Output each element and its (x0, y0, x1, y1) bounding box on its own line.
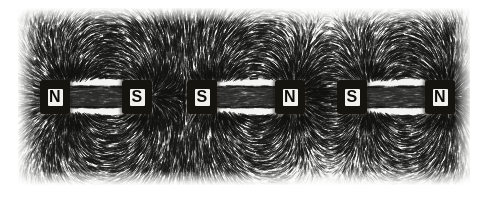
magnet-1-pole-label-left: N (40, 89, 70, 105)
magnet-2: SN (187, 80, 305, 114)
magnet-1-pole-n: N (40, 80, 70, 114)
magnet-3-pole-s: S (337, 80, 367, 114)
magnet-3-pole-label-left: S (337, 89, 367, 105)
magnet-3-pole-label-right: N (425, 89, 455, 105)
magnet-3: SN (337, 80, 455, 114)
pole-letter: S (346, 88, 357, 105)
magnet-2-pole-label-left: S (187, 89, 217, 105)
magnet-1: NS (40, 80, 152, 114)
magnet-2-pole-label-right: N (275, 89, 305, 105)
magnet-3-pole-n: N (425, 80, 455, 114)
pole-letter: N (284, 88, 296, 105)
magnet-1-pole-label-right: S (122, 89, 152, 105)
magnetic-field-figure: NSSNSN Iron filings pattern around three… (0, 0, 482, 200)
pole-letter: S (196, 88, 207, 105)
pole-letter: N (49, 88, 61, 105)
magnet-2-pole-n: N (275, 80, 305, 114)
magnet-1-pole-s: S (122, 80, 152, 114)
pole-letter: N (434, 88, 446, 105)
photographic-plate: NSSNSN (18, 8, 470, 185)
magnet-2-pole-s: S (187, 80, 217, 114)
pole-letter: S (131, 88, 142, 105)
